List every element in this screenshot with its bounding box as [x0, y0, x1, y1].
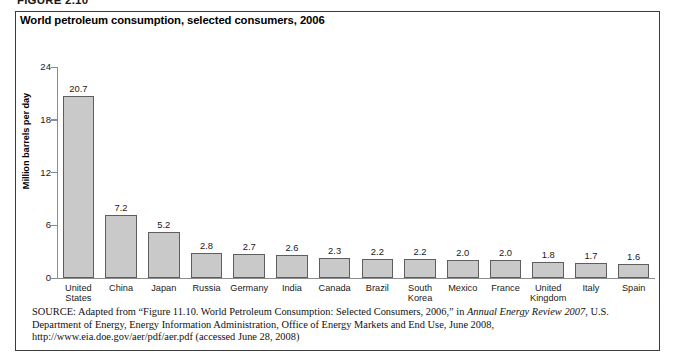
- chart-title: World petroleum consumption, selected co…: [20, 14, 325, 26]
- source-italic-title: Annual Energy Review 2007: [467, 306, 585, 317]
- source-prefix: SOURCE:: [32, 306, 76, 317]
- source-body-1: Adapted from “Figure 11.10. World Petrol…: [76, 306, 467, 317]
- figure-box: [15, 11, 660, 351]
- source-note: SOURCE: Adapted from “Figure 11.10. Worl…: [32, 306, 648, 344]
- figure-number-label: FIGURE 2.10: [17, 0, 88, 6]
